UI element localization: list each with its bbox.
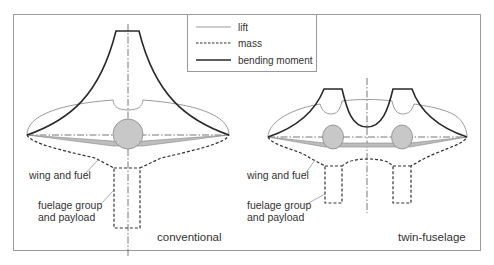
annotation-fuselage-line1: fuelage group bbox=[247, 199, 311, 211]
annotation-wing-fuel: wing and fuel bbox=[28, 169, 91, 181]
legend-label-lift: lift bbox=[238, 22, 248, 33]
annotation-wing-fuel: wing and fuel bbox=[246, 169, 309, 181]
panel-title-conventional: conventional bbox=[157, 231, 222, 243]
wing-section bbox=[268, 137, 467, 147]
legend: lift mass bending moment bbox=[188, 15, 317, 72]
left-fuselage-section bbox=[323, 125, 344, 149]
load-distribution-diagram: wing and fuel fuelage group and payload … bbox=[0, 0, 494, 265]
bending-moment-curve bbox=[268, 89, 467, 137]
legend-label-mass: mass bbox=[238, 38, 262, 49]
legend-label-bending: bending moment bbox=[238, 55, 313, 66]
panel-twin-fuselage: wing and fuel fuelage group and payload … bbox=[246, 78, 467, 243]
annotation-fuselage-line2: and payload bbox=[38, 211, 95, 223]
annotation-fuselage-line1: fuelage group bbox=[38, 199, 102, 211]
annotation-fuselage-line2: and payload bbox=[247, 211, 304, 223]
right-fuselage-section bbox=[392, 125, 413, 149]
panel-title-twin-fuselage: twin-fuselage bbox=[398, 231, 466, 243]
fuselage-section bbox=[113, 119, 143, 149]
lift-curve bbox=[268, 100, 467, 138]
